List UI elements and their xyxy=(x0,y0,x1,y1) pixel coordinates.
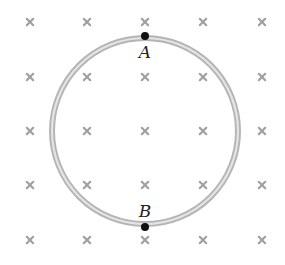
field-into-page-icon xyxy=(142,237,148,243)
loop-in-magnetic-field-diagram: AB xyxy=(0,0,285,265)
field-into-page-icon xyxy=(84,74,90,80)
field-into-page-icon xyxy=(200,182,206,188)
field-into-page-icon xyxy=(84,237,90,243)
field-into-page-icon xyxy=(27,237,33,243)
field-into-page-icon xyxy=(84,19,90,25)
point-b-label: B xyxy=(138,201,152,221)
field-into-page-icon xyxy=(27,74,33,80)
field-into-page-icon xyxy=(259,182,265,188)
point-a-label: A xyxy=(137,42,151,62)
field-into-page-icon xyxy=(259,237,265,243)
field-into-page-icon xyxy=(142,182,148,188)
field-into-page-icon xyxy=(200,237,206,243)
field-into-page-icon xyxy=(27,182,33,188)
field-into-page-icon xyxy=(259,128,265,134)
point-a-marker xyxy=(141,32,149,40)
field-into-page-icon xyxy=(142,128,148,134)
field-into-page-icon xyxy=(84,128,90,134)
field-into-page-icon xyxy=(142,19,148,25)
field-into-page-icon xyxy=(27,19,33,25)
field-into-page-icon xyxy=(200,74,206,80)
field-into-page-icon xyxy=(259,19,265,25)
field-into-page-icon xyxy=(200,128,206,134)
field-into-page-icon xyxy=(27,128,33,134)
field-into-page-icon xyxy=(259,74,265,80)
field-into-page-icon xyxy=(84,182,90,188)
point-b-marker xyxy=(141,223,149,231)
field-into-page-icon xyxy=(142,74,148,80)
field-into-page-icon xyxy=(200,19,206,25)
